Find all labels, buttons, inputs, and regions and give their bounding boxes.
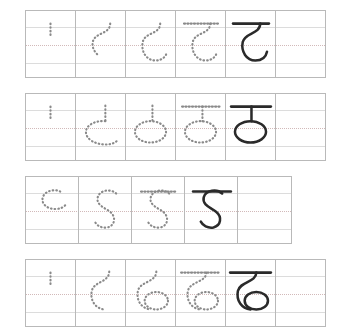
- practice-cell[interactable]: [76, 260, 126, 326]
- practice-cell[interactable]: [76, 94, 126, 160]
- upper-hook: [26, 177, 78, 243]
- upper-hook: [76, 260, 125, 326]
- practice-cell[interactable]: [26, 260, 76, 326]
- complete-letter-da: [185, 177, 237, 243]
- oval-with-headline: [176, 94, 225, 160]
- complete-letter-ta: [226, 11, 275, 77]
- practice-cell[interactable]: [126, 94, 176, 160]
- practice-cell[interactable]: [26, 94, 76, 160]
- complete-letter-dha: [226, 260, 275, 326]
- blank-practice-cell[interactable]: [276, 94, 327, 160]
- blank-practice-cell[interactable]: [276, 11, 327, 77]
- practice-cell[interactable]: [126, 11, 176, 77]
- practice-row-da: [25, 176, 292, 244]
- practice-cell[interactable]: [176, 260, 226, 326]
- practice-cell[interactable]: [185, 177, 238, 243]
- practice-cell[interactable]: [132, 177, 185, 243]
- closed-oval: [126, 94, 175, 160]
- hook-with-headline: [176, 11, 225, 77]
- stroke-start-tick: [26, 260, 75, 326]
- complete-letter-tha: [226, 94, 275, 160]
- stroke-start-tick: [26, 11, 75, 77]
- practice-cell[interactable]: [176, 11, 226, 77]
- loop-with-headline: [176, 260, 225, 326]
- practice-cell[interactable]: [76, 11, 126, 77]
- practice-cell[interactable]: [226, 94, 276, 160]
- practice-cell[interactable]: [26, 11, 76, 77]
- practice-cell[interactable]: [79, 177, 132, 243]
- body-with-headline: [132, 177, 184, 243]
- practice-row-tha: [25, 93, 326, 161]
- stroke-start-tick: [26, 94, 75, 160]
- blank-practice-cell[interactable]: [238, 177, 293, 243]
- worksheet-page: [0, 0, 351, 333]
- practice-cell[interactable]: [226, 260, 276, 326]
- practice-cell[interactable]: [126, 260, 176, 326]
- full-body: [79, 177, 131, 243]
- full-hook: [126, 11, 175, 77]
- partial-oval: [76, 94, 125, 160]
- blank-practice-cell[interactable]: [276, 260, 327, 326]
- practice-row-dha: [25, 259, 326, 327]
- practice-row-ta: [25, 10, 326, 78]
- practice-cell[interactable]: [226, 11, 276, 77]
- practice-cell[interactable]: [176, 94, 226, 160]
- upper-curve: [76, 11, 125, 77]
- hook-with-loop: [126, 260, 175, 326]
- practice-cell[interactable]: [26, 177, 79, 243]
